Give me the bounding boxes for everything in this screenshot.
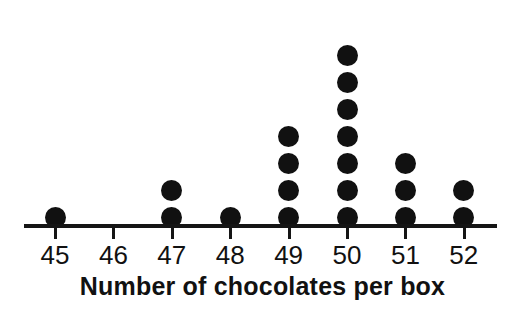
data-dot	[337, 126, 358, 147]
data-dot	[337, 153, 358, 174]
x-axis-tick	[346, 228, 349, 239]
dot-stack	[444, 174, 484, 228]
x-axis-tick-label: 51	[375, 240, 435, 270]
dot-plot-figure: Number of chocolates per box 45464748495…	[0, 0, 525, 311]
x-axis-tick	[112, 228, 115, 239]
data-dot	[453, 180, 474, 201]
data-dot	[337, 72, 358, 93]
x-axis-tick	[288, 228, 291, 239]
data-dot	[278, 180, 299, 201]
dot-stack	[327, 39, 367, 228]
dot-stack	[152, 174, 192, 228]
data-dot	[278, 153, 299, 174]
x-axis-tick	[229, 228, 232, 239]
dot-stack	[385, 147, 425, 228]
dot-stack	[269, 120, 309, 228]
data-dot	[337, 99, 358, 120]
data-dot	[278, 126, 299, 147]
x-axis-tick	[463, 228, 466, 239]
x-axis-title: Number of chocolates per box	[0, 272, 525, 301]
x-axis-tick-label: 47	[142, 240, 202, 270]
x-axis-tick	[171, 228, 174, 239]
x-axis-tick-label: 49	[259, 240, 319, 270]
dot-plot-area	[0, 0, 525, 228]
data-dot	[337, 45, 358, 66]
x-axis-tick-label: 50	[317, 240, 377, 270]
x-axis-line	[24, 224, 497, 228]
x-axis-tick-label: 46	[83, 240, 143, 270]
data-dot	[161, 180, 182, 201]
data-dot	[395, 180, 416, 201]
data-dot	[395, 153, 416, 174]
x-axis-tick-label: 48	[200, 240, 260, 270]
data-dot	[337, 180, 358, 201]
x-axis-tick	[404, 228, 407, 239]
x-axis-tick-label: 52	[434, 240, 494, 270]
x-axis-tick-label: 45	[25, 240, 85, 270]
x-axis-tick	[54, 228, 57, 239]
